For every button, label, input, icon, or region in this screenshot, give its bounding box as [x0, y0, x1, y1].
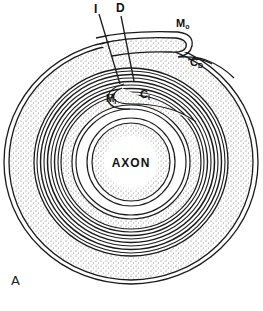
- panel-label: A: [11, 273, 20, 288]
- label-axon: AXON: [112, 156, 151, 170]
- label-d: D: [116, 1, 125, 15]
- myelin-diagram: I D Mo CD MI CI AXON A: [0, 0, 263, 311]
- label-i: I: [94, 2, 97, 16]
- label-m0: Mo: [176, 17, 189, 30]
